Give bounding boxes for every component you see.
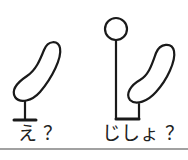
left-label-question-mark: ？ [43,122,62,144]
left-label-text: え [18,122,37,144]
right-bean-shape [128,45,174,103]
right-label-question-mark: ？ [165,122,184,144]
left-figure-label: え？ [18,124,62,143]
right-figure-label: じしょ？ [102,124,184,143]
right-circle-head [105,18,127,40]
right-label-text: じしょ [102,122,159,144]
right-figure [105,18,174,119]
left-figure [14,42,60,120]
left-bean-shape [14,42,60,101]
